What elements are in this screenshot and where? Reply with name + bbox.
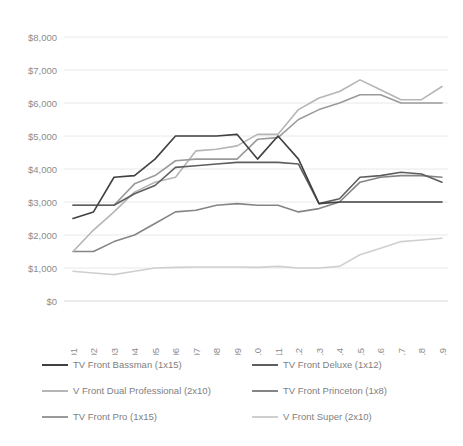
legend-label: TV Front Deluxe (1x12) (283, 360, 382, 370)
y-axis-tick-label: $1,000 (28, 263, 57, 274)
plot-area: $8,000$7,000$6,000$5,000$4,000$3,000$2,0… (0, 0, 463, 355)
legend-label: TV Front Bassman (1x15) (73, 360, 182, 370)
legend-label: TV Front Princeton (1x8) (283, 386, 387, 396)
y-axis-tick-label: $7,000 (28, 65, 57, 76)
legend-label: TV Front Pro (1x15) (73, 412, 157, 422)
legend-label: V Front Super (2x10) (283, 412, 372, 422)
legend-item[interactable]: V Front Super (2x10) (252, 404, 462, 430)
y-axis-tick-label: $4,000 (28, 164, 57, 175)
legend-item[interactable]: TV Front Deluxe (1x12) (252, 352, 462, 378)
legend-swatch-icon (42, 416, 68, 418)
gridlines (64, 37, 448, 301)
legend-item[interactable]: V Front Dual Professional (2x10) (42, 378, 252, 404)
chart-legend: TV Front Bassman (1x15)TV Front Deluxe (… (0, 352, 463, 446)
legend-swatch-icon (252, 416, 278, 418)
legend-swatch-icon (42, 364, 68, 366)
series-line-v-front-super-2x10 (73, 238, 442, 274)
series-lines (73, 80, 442, 275)
legend-swatch-icon (42, 390, 68, 392)
legend-item[interactable]: TV Front Princeton (1x8) (252, 378, 462, 404)
y-axis-tick-label: $2,000 (28, 230, 57, 241)
y-axis-tick-label: $5,000 (28, 131, 57, 142)
series-line-tv-front-pro-1x15 (73, 95, 442, 206)
series-line-tv-front-princeton-1x8 (73, 176, 442, 252)
line-chart: $8,000$7,000$6,000$5,000$4,000$3,000$2,0… (0, 0, 463, 446)
legend-label: V Front Dual Professional (2x10) (73, 386, 211, 396)
legend-swatch-icon (252, 364, 278, 366)
legend-swatch-icon (252, 390, 278, 392)
y-axis-tick-label: $3,000 (28, 197, 57, 208)
legend-item[interactable]: TV Front Bassman (1x15) (42, 352, 252, 378)
y-axis-tick-label: $6,000 (28, 98, 57, 109)
legend-item[interactable]: TV Front Pro (1x15) (42, 404, 252, 430)
y-axis-tick-labels: $8,000$7,000$6,000$5,000$4,000$3,000$2,0… (28, 32, 57, 307)
y-axis-tick-label: $0 (46, 296, 57, 307)
chart-svg: $8,000$7,000$6,000$5,000$4,000$3,000$2,0… (0, 0, 463, 355)
y-axis-tick-label: $8,000 (28, 32, 57, 43)
series-line-v-front-dual-professional-2x10 (73, 80, 442, 252)
